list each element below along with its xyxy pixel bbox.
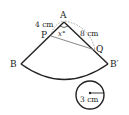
label-radius: 3 cm xyxy=(80,95,98,104)
label-angle-x: x° xyxy=(58,30,65,38)
angle-arc xyxy=(60,26,68,28)
cone-net-diagram: A B B′ P Q 4 cm 8 cm x° 3 cm xyxy=(0,0,129,115)
label-Q: Q xyxy=(96,44,103,54)
label-AQ-length: 8 cm xyxy=(80,29,98,38)
label-AP-length: 4 cm xyxy=(35,20,53,29)
label-A: A xyxy=(59,10,67,20)
segment-PQ xyxy=(51,36,95,50)
label-B: B xyxy=(10,59,17,69)
label-B-prime: B′ xyxy=(110,59,119,69)
sector-arc xyxy=(21,64,108,80)
label-P: P xyxy=(41,30,47,40)
